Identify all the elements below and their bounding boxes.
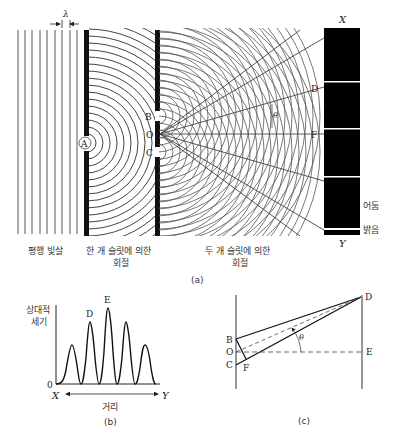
slit-b-label: B <box>145 112 152 122</box>
bright-label: 밝음 <box>363 225 379 235</box>
caption-b: (b) <box>104 417 117 427</box>
single-slit-caption-line2: 회절 <box>113 257 129 268</box>
plane-wavefronts <box>18 30 77 234</box>
intensity-curve <box>56 308 156 384</box>
y-axis-label-line2: 세기 <box>31 317 47 327</box>
point-o-label: O <box>226 347 233 357</box>
double-slit-caption-line1: 두 개 슬릿에 의한 <box>205 245 270 256</box>
wavelength-label: λ <box>62 9 69 19</box>
double-slit-caption-line2: 회절 <box>232 257 248 268</box>
point-e-label: E <box>366 347 373 357</box>
double-slit-wavefronts <box>0 0 324 314</box>
caption-c: (c) <box>298 416 310 426</box>
point-b-label: B <box>226 335 233 345</box>
screen-y-label: Y <box>339 238 347 249</box>
x-end-label: Y <box>162 390 170 401</box>
slit-o-label: O <box>146 130 153 140</box>
screen <box>324 28 360 235</box>
double-slit-barrier-top <box>155 30 160 111</box>
screen-x-label: X <box>338 14 347 25</box>
peak-d-label: D <box>86 309 93 319</box>
slit-a-label: A <box>80 139 88 149</box>
wavelength-marker <box>50 20 79 28</box>
double-slit-figure: λ A B O C <box>0 0 394 439</box>
peak-e-label: E <box>104 295 111 305</box>
bright-fringe-3 <box>324 176 360 178</box>
ray-d-label: D <box>311 84 318 94</box>
single-slit-barrier-bottom <box>84 151 89 236</box>
panel-a: λ A B O C <box>0 0 379 314</box>
segment-bf <box>236 339 246 359</box>
double-slit-barrier-middle <box>155 121 160 147</box>
ray-od <box>236 297 361 352</box>
x-axis-label: 거리 <box>102 402 118 412</box>
ray-cd <box>236 297 361 365</box>
bright-fringe-2 <box>324 128 360 130</box>
bright-fringe-4 <box>324 228 360 230</box>
ray-f-label: F <box>311 130 317 140</box>
x-start-label: X <box>51 390 60 401</box>
y-axis-label-line1: 상대적 <box>26 304 50 315</box>
double-slit-barrier-bottom <box>155 157 160 236</box>
zero-label: 0 <box>47 380 53 390</box>
angle-theta-c-label: θ <box>299 333 304 342</box>
plane-wave-caption: 평행 빛살 <box>28 245 63 256</box>
bright-fringe-1 <box>324 81 360 83</box>
panel-b: D E 상대적 세기 0 X Y 거리 (b) <box>26 295 170 427</box>
single-slit-barrier-top <box>84 30 89 136</box>
point-d-label: D <box>365 292 372 302</box>
point-c-label: C <box>226 360 233 370</box>
single-slit-caption-line1: 한 개 슬릿에 의한 <box>86 245 151 256</box>
dark-label: 어둠 <box>363 201 379 211</box>
slit-c-label: C <box>146 148 153 158</box>
panel-c: θ B O C F D E (c) <box>226 292 373 426</box>
caption-a: (a) <box>191 275 204 285</box>
point-f-label: F <box>243 363 249 373</box>
angle-theta-label: θ <box>273 111 278 120</box>
